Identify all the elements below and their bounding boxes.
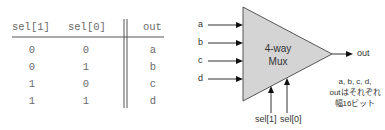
mux-title-line2: Mux: [258, 57, 298, 67]
width-note-line2: outはそれぞれ: [320, 89, 385, 97]
table-cell: c: [143, 79, 163, 90]
table-cell: 1: [76, 96, 96, 107]
width-note-line1: a, b, c, d,: [320, 78, 385, 86]
diagram-lines: [0, 0, 385, 130]
table-cell: a: [143, 45, 163, 56]
input-label-b: b: [198, 38, 203, 47]
input-label-d: d: [198, 74, 203, 83]
select-label-sel0: sel[0]: [280, 115, 302, 124]
table-cell: 1: [22, 79, 42, 90]
table-cell: 0: [76, 45, 96, 56]
mux-title-line1: 4-way: [258, 44, 298, 54]
table-cell: 0: [76, 79, 96, 90]
width-note-line3: 幅16ビット: [320, 100, 385, 108]
table-cell: d: [143, 96, 163, 107]
input-label-c: c: [198, 56, 203, 65]
output-arrow: [332, 51, 353, 57]
table-cell: 0: [22, 45, 42, 56]
table-cell: 1: [22, 96, 42, 107]
select-label-sel1: sel[1]: [255, 115, 277, 124]
header-out: out: [143, 22, 162, 33]
input-arrows: [208, 22, 243, 82]
table-cell: b: [143, 62, 163, 73]
header-sel0: sel[0]: [68, 22, 106, 33]
input-label-a: a: [198, 20, 203, 29]
table-cell: 0: [22, 62, 42, 73]
table-cell: 1: [76, 62, 96, 73]
header-sel1: sel[1]: [12, 22, 50, 33]
output-label: out: [357, 49, 370, 58]
